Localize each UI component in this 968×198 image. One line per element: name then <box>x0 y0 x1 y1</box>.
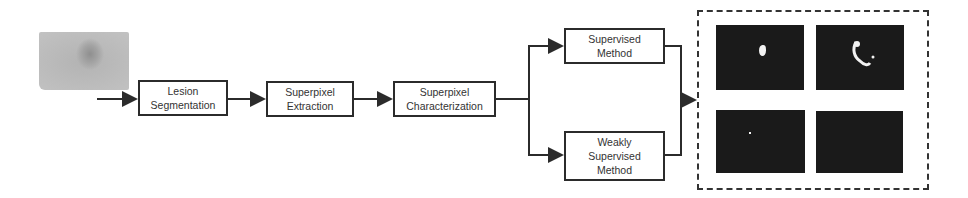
step-lesion-segmentation: LesionSegmentation <box>138 80 228 116</box>
step-superpixel-extraction: SuperpixelExtraction <box>266 81 354 117</box>
branch-supervised-method: SupervisedMethod <box>564 28 665 64</box>
step-label: Superpixel <box>285 85 335 99</box>
branch-label: Method <box>588 46 641 60</box>
input-lesion-image <box>39 32 129 90</box>
output-mask-4 <box>816 111 903 173</box>
step-superpixel-characterization: SuperpixelCharacterization <box>393 81 496 117</box>
branch-label: Weakly <box>588 135 641 149</box>
branch-label: Supervised <box>588 149 641 163</box>
step-label: Characterization <box>406 99 482 113</box>
step-label: Superpixel <box>406 85 482 99</box>
branch-label: Method <box>588 163 641 177</box>
branch-weakly-supervised-method: WeaklySupervisedMethod <box>564 131 665 181</box>
step-label: Extraction <box>285 99 335 113</box>
output-mask-2 <box>816 25 904 90</box>
output-mask-1 <box>716 25 804 90</box>
output-mask-3 <box>716 110 805 173</box>
step-label: Segmentation <box>151 98 216 112</box>
step-label: Lesion <box>151 84 216 98</box>
branch-label: Supervised <box>588 32 641 46</box>
